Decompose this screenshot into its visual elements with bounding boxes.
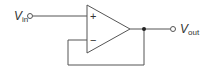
output-terminal bbox=[171, 27, 176, 32]
output-label: Vout bbox=[180, 22, 200, 37]
junction-dot bbox=[142, 27, 146, 31]
inverting-sign: − bbox=[90, 34, 96, 46]
non-inverting-sign: + bbox=[90, 10, 96, 22]
input-label-subscript: in bbox=[22, 15, 28, 24]
opamp-diagram: + − Vin Vout bbox=[0, 0, 206, 69]
output-label-subscript: out bbox=[188, 28, 200, 37]
input-label: Vin bbox=[14, 9, 28, 24]
input-terminal bbox=[28, 14, 33, 19]
